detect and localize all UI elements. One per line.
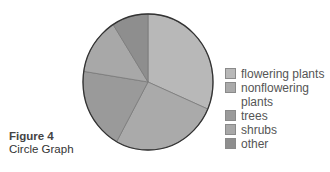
legend-swatch xyxy=(225,82,236,93)
legend-label: nonflowering plants xyxy=(241,81,329,109)
legend-label: flowering plants xyxy=(241,67,329,81)
figure-caption: Figure 4 Circle Graph xyxy=(9,130,74,156)
legend-item-nonflowering-plants: nonflowering plants xyxy=(225,81,329,109)
legend-item-other: other xyxy=(225,137,329,151)
legend-swatch xyxy=(225,124,236,135)
legend-swatch xyxy=(225,110,236,121)
pie-slices xyxy=(83,14,213,150)
legend-item-trees: trees xyxy=(225,109,329,123)
legend-swatch xyxy=(225,138,236,149)
legend-label: trees xyxy=(241,109,329,123)
figure-title: Figure 4 xyxy=(9,130,74,143)
legend-label: shrubs xyxy=(241,123,329,137)
legend-item-flowering-plants: flowering plants xyxy=(225,67,329,81)
legend-swatch xyxy=(225,68,236,79)
legend-label: other xyxy=(241,137,329,151)
legend: flowering plants nonflowering plants tre… xyxy=(225,67,329,151)
figure-subtitle: Circle Graph xyxy=(9,143,74,156)
legend-item-shrubs: shrubs xyxy=(225,123,329,137)
